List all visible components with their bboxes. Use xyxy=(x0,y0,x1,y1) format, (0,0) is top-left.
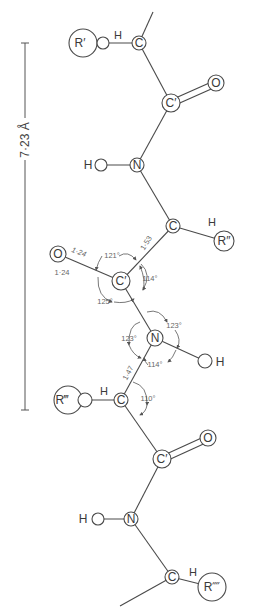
hydrogen-label: H xyxy=(114,29,122,41)
side-chain-r4-label: R⁗ xyxy=(204,580,221,594)
c-alpha-label: C xyxy=(135,36,144,50)
bond-length-co-upper: 1·24 xyxy=(70,245,87,259)
angle-h-n-calpha: 114° xyxy=(148,360,163,369)
c-alpha-label: C xyxy=(168,570,177,584)
nitrogen-label: N xyxy=(133,158,142,172)
angle-n-calpha-c: 110° xyxy=(141,394,156,403)
side-chain-r2-label: R″ xyxy=(218,234,232,248)
oxygen-label: O xyxy=(203,431,212,445)
c-carbonyl-label: C′ xyxy=(166,96,178,110)
angle-arcs xyxy=(96,254,179,415)
scale-bar: 7·23 Å xyxy=(17,43,32,410)
hydrogen-atom xyxy=(92,513,104,525)
hydrogen-label: H xyxy=(216,355,225,369)
side-chain-r3-label: R‴ xyxy=(56,393,70,407)
hydrogen-atom xyxy=(97,37,109,49)
angle-calpha-c-n: 114° xyxy=(143,274,158,283)
nitrogen-label: N xyxy=(151,331,160,345)
hydrogen-atom xyxy=(95,159,107,171)
residue-3: N H R‴ H C C′ O xyxy=(54,330,224,468)
hydrogen-atom xyxy=(78,393,92,407)
angle-c-n-h: 123° xyxy=(166,321,182,330)
c-carbonyl-label: C′ xyxy=(157,452,169,466)
bond-length-n-calpha: 1·47 xyxy=(121,364,136,381)
oxygen-label: O xyxy=(211,76,220,90)
c-alpha-label: C xyxy=(117,393,126,407)
residue-1: R′ H C C′ O xyxy=(69,29,224,112)
hydrogen-atom xyxy=(198,354,212,368)
hydrogen-label: H xyxy=(208,216,216,228)
polypeptide-diagram: 7·23 Å R′ H C C′ xyxy=(0,0,254,612)
hydrogen-label: H xyxy=(79,512,88,526)
angle-labels: 121° 114° 125° 123° 123° 114° 110° xyxy=(97,251,182,403)
c-alpha-label: C xyxy=(169,219,178,233)
side-chain-r1-label: R′ xyxy=(75,36,87,50)
nitrogen-label: N xyxy=(127,512,136,526)
scale-label: 7·23 Å xyxy=(17,122,32,157)
oxygen-label: O xyxy=(53,247,62,261)
c-carbonyl-label: C′ xyxy=(116,274,128,288)
hydrogen-label: H xyxy=(100,385,108,397)
angle-o-c-calpha: 121° xyxy=(104,251,120,260)
hydrogen-label: H xyxy=(189,566,197,578)
hydrogen-label: H xyxy=(84,158,93,172)
bond-length-co-lower: 1·24 xyxy=(54,268,69,277)
